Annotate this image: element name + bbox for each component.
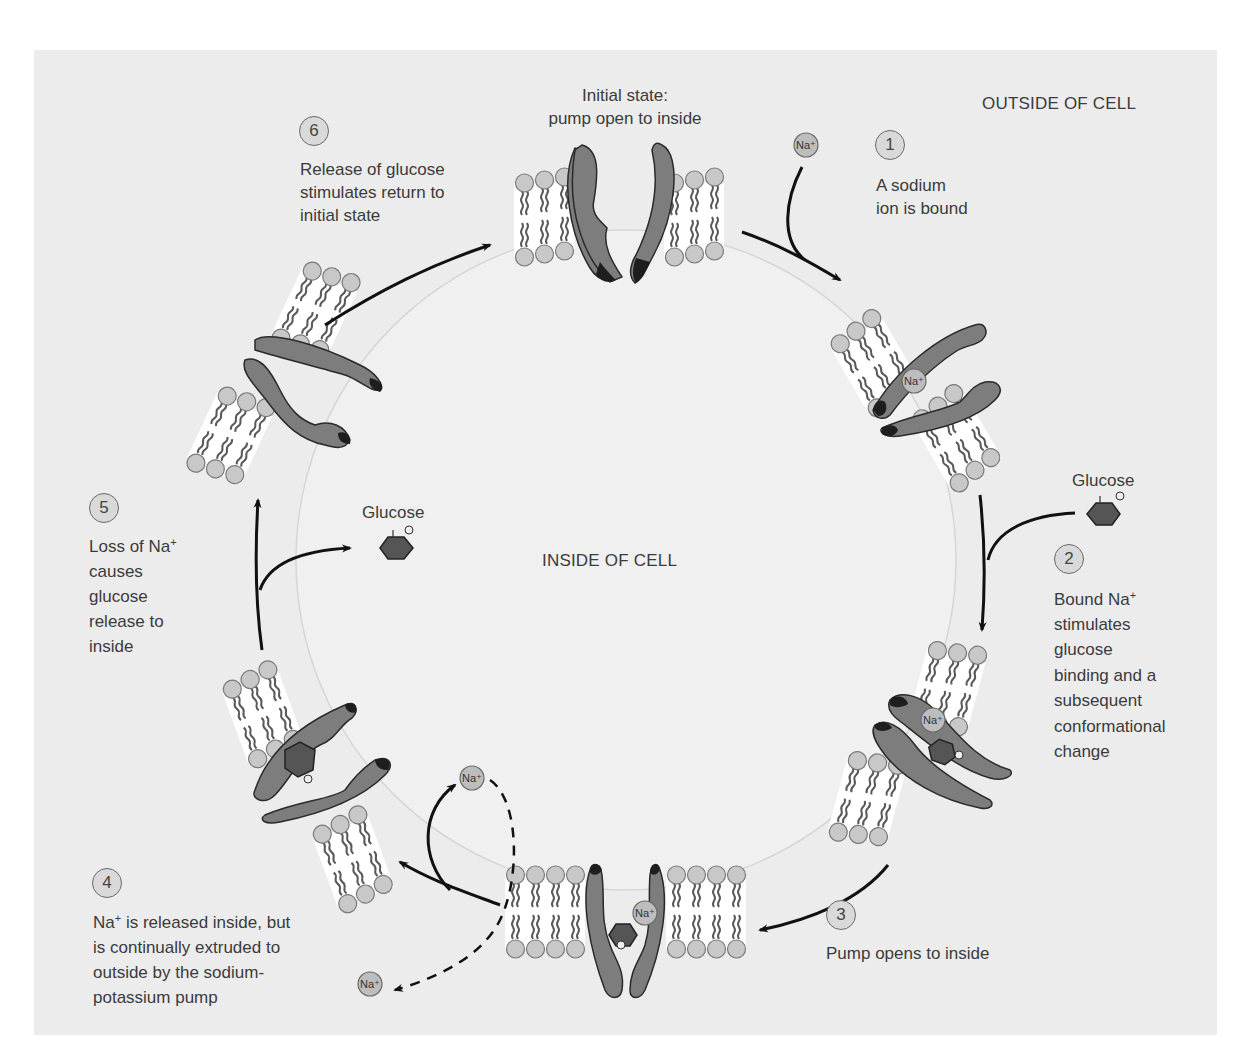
step-2-text-line: binding and a — [1054, 664, 1156, 687]
step-5-badge: 5 — [89, 493, 119, 523]
ion-label: Na⁺ — [360, 978, 380, 990]
step-1-badge: 1 — [875, 130, 905, 160]
glucose-inside-label: Glucose — [362, 501, 424, 524]
glucose-outside-label: Glucose — [1072, 469, 1134, 492]
step-4-badge: 4 — [92, 868, 122, 898]
step-4-text-line: is continually extruded to — [93, 936, 280, 959]
step-3-text-line: Pump opens to inside — [826, 942, 990, 965]
ion-label: Na⁺ — [923, 714, 943, 726]
step-6-text-line: initial state — [300, 204, 380, 227]
step-2-text-line: change — [1054, 740, 1110, 763]
inside-cell-label: INSIDE OF CELL — [542, 549, 677, 572]
step-1-text-line: A sodium — [876, 174, 946, 197]
step-2-text-line: glucose — [1054, 638, 1113, 661]
ion-label: Na⁺ — [635, 907, 655, 919]
ion-label: Na⁺ — [796, 139, 816, 151]
step-6-text-line: stimulates return to — [300, 181, 445, 204]
step-4-text-line: outside by the sodium- — [93, 961, 264, 984]
step-4-text-line: Na+ is released inside, but — [93, 911, 290, 934]
initial-state-subtitle: pump open to inside — [530, 107, 720, 130]
step-2-text-line: conformational — [1054, 715, 1166, 738]
step-5-text-line: Loss of Na+ — [89, 535, 177, 558]
glucose-outside — [1087, 492, 1124, 525]
step-5-text-line: glucose — [89, 585, 148, 608]
step-4-text-line: potassium pump — [93, 986, 218, 1009]
step-1-text-line: ion is bound — [876, 197, 968, 220]
step-5-text-line: causes — [89, 560, 143, 583]
step-2-text-line: Bound Na+ — [1054, 588, 1136, 611]
ion-label: Na⁺ — [904, 375, 924, 387]
step-2-text-line: stimulates — [1054, 613, 1131, 636]
step-2-text-line: subsequent — [1054, 689, 1142, 712]
cotransport-cycle-diagram: Na⁺ Na⁺ Na⁺ Na⁺ Na⁺ Na⁺ — [0, 0, 1246, 1062]
step-5-text-line: inside — [89, 635, 133, 658]
step-2-badge: 2 — [1054, 544, 1084, 574]
step-5-text-line: release to — [89, 610, 164, 633]
initial-state-title: Initial state: — [560, 84, 690, 107]
step-6-text-line: Release of glucose — [300, 158, 445, 181]
step-6-badge: 6 — [299, 116, 329, 146]
outside-cell-label: OUTSIDE OF CELL — [982, 92, 1136, 115]
step-3-badge: 3 — [826, 900, 856, 930]
ion-label: Na⁺ — [462, 772, 482, 784]
